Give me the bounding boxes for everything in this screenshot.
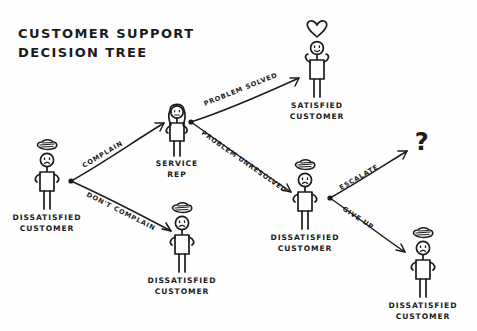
edge-give-up: GIVE UP xyxy=(330,198,405,252)
neutral-face xyxy=(175,111,180,116)
node-unresolved-dissatisfied-customer[interactable]: DISSATISFIED CUSTOMER xyxy=(271,160,340,253)
storm-cloud-icon xyxy=(296,160,315,170)
edge-problem-unresolved: PROBLEM UNRESOLVED xyxy=(191,122,291,194)
head xyxy=(40,153,53,166)
sad-face xyxy=(303,178,308,183)
edge-escalate-label: ESCALATE xyxy=(338,163,380,192)
node-label-line-1: SATISFIED xyxy=(291,101,343,110)
arms xyxy=(411,262,434,270)
edge-complain-line xyxy=(71,123,164,181)
node-no-complaint-dissatisfied-customer[interactable]: DISSATISFIED CUSTOMER xyxy=(148,203,217,296)
head xyxy=(416,241,429,254)
node-label-line-1: DISSATISFIED xyxy=(271,233,340,242)
legs xyxy=(420,279,426,297)
diagram-canvas: CUSTOMER SUPPORT DECISION TREE COMPLAIN … xyxy=(0,0,477,331)
node-label-line-1: SERVICE xyxy=(156,159,198,168)
heart-icon xyxy=(307,21,326,37)
edge-dont-complain: DON'T COMPLAIN xyxy=(71,181,171,232)
legs xyxy=(174,141,180,156)
legs xyxy=(44,191,50,209)
node-label-line-1: DISSATISFIED xyxy=(13,213,82,222)
head xyxy=(175,216,188,229)
storm-cloud-icon xyxy=(38,140,57,150)
head xyxy=(298,173,311,186)
title-line-2: DECISION TREE xyxy=(18,45,148,60)
node-label-line-2: REP xyxy=(167,170,186,179)
edge-give-up-arrowhead xyxy=(396,244,405,252)
legs xyxy=(302,211,308,229)
arms xyxy=(293,194,316,202)
sad-face xyxy=(421,246,426,251)
edge-escalate: ESCALATE xyxy=(330,151,407,198)
title-line-1: CUSTOMER SUPPORT xyxy=(18,26,194,41)
node-label-line-2: CUSTOMER xyxy=(290,112,345,121)
torso xyxy=(416,255,430,279)
sad-face xyxy=(180,221,185,226)
question-mark-icon: ? xyxy=(415,128,430,156)
head xyxy=(171,106,183,118)
edge-complain-label: COMPLAIN xyxy=(81,139,124,170)
arms xyxy=(170,237,193,245)
node-label-line-2: CUSTOMER xyxy=(278,244,333,253)
edge-problem-solved-label: PROBLEM SOLVED xyxy=(203,71,279,108)
happy-face xyxy=(315,46,320,52)
torso xyxy=(298,187,312,211)
node-service-rep[interactable]: SERVICE REP xyxy=(156,104,198,179)
node-start-dissatisfied-customer[interactable]: DISSATISFIED CUSTOMER xyxy=(13,140,82,233)
torso xyxy=(170,118,184,141)
torso xyxy=(40,167,54,191)
node-label-line-2: CUSTOMER xyxy=(396,312,451,321)
edge-problem-solved: PROBLEM SOLVED xyxy=(191,71,299,122)
edge-problem-unresolved-label: PROBLEM UNRESOLVED xyxy=(200,129,289,194)
node-label-line-2: CUSTOMER xyxy=(155,287,210,296)
sad-face xyxy=(45,158,50,163)
head xyxy=(311,42,324,55)
node-escalate-unknown-outcome[interactable]: ? xyxy=(415,128,430,156)
storm-cloud-icon xyxy=(173,203,192,213)
edge-give-up-label: GIVE UP xyxy=(341,205,375,231)
node-label-line-1: DISSATISFIED xyxy=(389,301,458,310)
storm-cloud-icon xyxy=(414,228,433,238)
node-label-line-1: DISSATISFIED xyxy=(148,276,217,285)
node-give-up-dissatisfied-customer[interactable]: DISSATISFIED CUSTOMER xyxy=(389,228,458,321)
arms xyxy=(35,174,58,182)
node-label-line-2: CUSTOMER xyxy=(20,224,75,233)
torso xyxy=(175,230,189,254)
torso xyxy=(310,55,324,79)
decision-tree-diagram: CUSTOMER SUPPORT DECISION TREE COMPLAIN … xyxy=(0,0,477,331)
diagram-title: CUSTOMER SUPPORT DECISION TREE xyxy=(18,26,194,60)
edge-dont-complain-label: DON'T COMPLAIN xyxy=(85,191,157,233)
node-satisfied-customer[interactable]: SATISFIED CUSTOMER xyxy=(290,21,345,121)
edge-complain: COMPLAIN xyxy=(71,123,164,181)
legs xyxy=(179,254,185,272)
legs xyxy=(314,79,320,97)
